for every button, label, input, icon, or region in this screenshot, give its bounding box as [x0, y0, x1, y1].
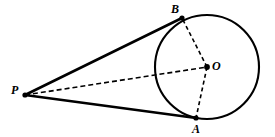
point-label-a: A — [192, 123, 200, 135]
segment-oa-radius-dashed — [196, 67, 207, 118]
segment-pa-tangent — [25, 95, 196, 118]
point-label-b: B — [171, 3, 179, 15]
point-label-p: P — [11, 84, 18, 96]
figure-canvas — [0, 0, 275, 137]
point-dot-o — [204, 64, 210, 70]
point-dot-p — [22, 92, 27, 97]
point-dot-a — [193, 115, 198, 120]
point-label-o: O — [212, 60, 221, 72]
point-dot-b — [179, 15, 184, 20]
geometry-figure: P B O A — [0, 0, 275, 137]
segment-ob-radius-dashed — [182, 18, 207, 67]
